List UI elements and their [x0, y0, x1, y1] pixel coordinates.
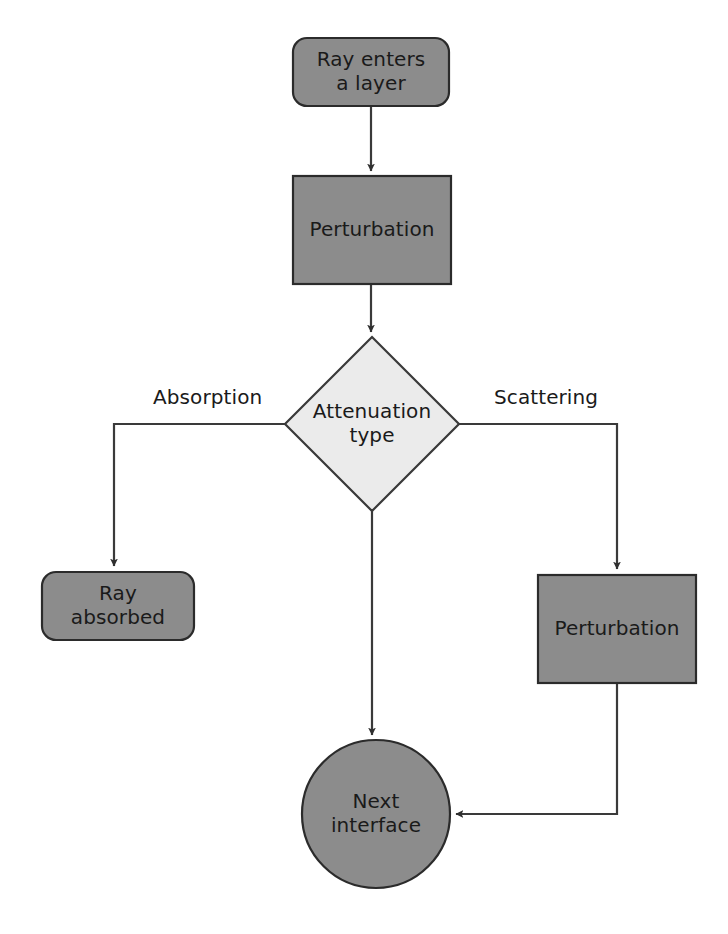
flowchart-diagram: Ray enters a layer Perturbation Attenuat… — [0, 0, 728, 934]
edge-label-scattering: Scattering — [494, 385, 598, 409]
edge-decision-absorption — [114, 424, 285, 566]
node-next-interface[interactable] — [302, 740, 450, 888]
node-perturbation-bottom[interactable] — [538, 575, 696, 683]
node-attenuation-type[interactable] — [285, 337, 459, 511]
edge-label-absorption: Absorption — [153, 385, 262, 409]
edge-perturbation-bottom-to-next-interface — [456, 683, 617, 814]
node-layer — [42, 38, 696, 888]
node-ray-absorbed[interactable] — [42, 572, 194, 640]
node-ray-enters[interactable] — [293, 38, 449, 106]
flowchart-canvas — [0, 0, 728, 934]
edge-decision-scattering — [459, 424, 617, 569]
node-perturbation-top[interactable] — [293, 176, 451, 284]
